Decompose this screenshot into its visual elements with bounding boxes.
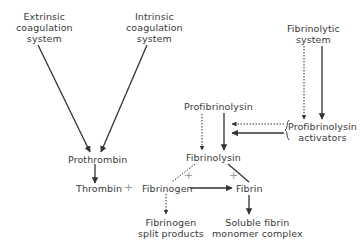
node-soluble-fibrin-monomer-complex: Soluble fibrin monomer complex — [212, 217, 303, 239]
node-intrinsic-coagulation-system: Intrinsic coagulation system — [126, 11, 183, 44]
node-fibrin: Fibrin — [236, 183, 263, 194]
label: Intrinsic — [126, 11, 183, 22]
label: coagulation — [126, 22, 183, 33]
node-fibrinolysin: Fibrinolysin — [186, 152, 241, 163]
label: coagulation — [16, 22, 73, 33]
label: Fibrinolytic — [287, 23, 340, 34]
plus-sign-fibrinolysin-fibrin: + — [229, 170, 238, 181]
arrow-extrinsic-to-prothrombin — [38, 45, 90, 152]
label: Profibrinolysin — [288, 121, 357, 132]
node-fibrinolytic-system: Fibrinolytic system — [287, 23, 340, 45]
plus-sign-fibrinolysin-fibrinogen: + — [184, 170, 193, 181]
label: split products — [138, 228, 204, 239]
node-prothrombin: Prothrombin — [68, 154, 127, 165]
node-profibrinolysin: Profibrinolysin — [184, 101, 253, 112]
label: system — [16, 33, 73, 44]
label: Fibrinogen — [142, 183, 193, 194]
node-fibrinogen: Fibrinogen — [142, 183, 193, 194]
label: Extrinsic — [16, 11, 73, 22]
label: Soluble fibrin — [212, 217, 303, 228]
plus-sign-thrombin-fibrinogen: + — [124, 182, 133, 193]
label: Fibrinogen — [138, 217, 204, 228]
label: system — [287, 34, 340, 45]
node-fibrinogen-split-products: Fibrinogen split products — [138, 217, 204, 239]
label: Profibrinolysin — [184, 101, 253, 112]
node-profibrinolysin-activators: Profibrinolysin activators — [288, 121, 357, 143]
fibrinolysis-diagram: Extrinsic coagulation system Intrinsic c… — [0, 0, 360, 252]
label: system — [126, 33, 183, 44]
label: activators — [288, 132, 357, 143]
label: Thrombin — [76, 183, 122, 194]
label: monomer complex — [212, 228, 303, 239]
label: Prothrombin — [68, 154, 127, 165]
label: Fibrinolysin — [186, 152, 241, 163]
label: Fibrin — [236, 183, 263, 194]
node-extrinsic-coagulation-system: Extrinsic coagulation system — [16, 11, 73, 44]
arrow-intrinsic-to-prothrombin — [101, 45, 147, 152]
node-thrombin: Thrombin — [76, 183, 122, 194]
